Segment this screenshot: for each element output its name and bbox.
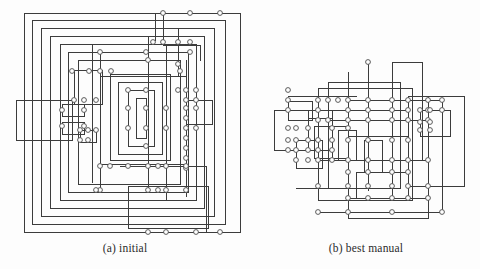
graph-node bbox=[316, 210, 321, 215]
graph-node bbox=[390, 138, 395, 143]
graph-node bbox=[144, 88, 149, 93]
graph-node bbox=[428, 120, 433, 125]
graph-edge bbox=[364, 140, 382, 172]
graph-node bbox=[316, 158, 321, 163]
graph-edge bbox=[420, 110, 450, 136]
graph-node bbox=[98, 69, 103, 74]
graph-node bbox=[316, 148, 321, 153]
graph-edge bbox=[110, 74, 170, 160]
graph-node bbox=[440, 108, 445, 113]
graph-node bbox=[366, 170, 371, 175]
graph-node bbox=[418, 128, 423, 133]
graph-node bbox=[188, 11, 193, 16]
graph-node bbox=[390, 158, 395, 163]
graph-node bbox=[126, 88, 131, 93]
graph-node bbox=[164, 230, 169, 235]
graph-node bbox=[366, 184, 371, 189]
graph-node bbox=[390, 108, 395, 113]
graph-node bbox=[70, 69, 75, 74]
graph-node bbox=[126, 106, 131, 111]
graph-node bbox=[60, 108, 65, 113]
graph-node bbox=[390, 118, 395, 123]
graph-node bbox=[109, 69, 114, 74]
graph-edge bbox=[338, 130, 356, 160]
graph-node bbox=[346, 126, 351, 131]
graph-edge bbox=[136, 98, 146, 138]
graph-node bbox=[316, 184, 321, 189]
graph-node bbox=[366, 118, 371, 123]
graph-node bbox=[428, 128, 433, 133]
graph-node bbox=[184, 136, 189, 141]
graph-node bbox=[184, 146, 189, 151]
graph-node bbox=[94, 98, 99, 103]
graph-node bbox=[428, 108, 433, 113]
graph-edge bbox=[186, 100, 212, 124]
graph-edge bbox=[120, 166, 206, 232]
graph-node bbox=[144, 50, 149, 55]
graph-node bbox=[390, 184, 395, 189]
graph-edge bbox=[274, 110, 308, 150]
graph-node bbox=[178, 69, 183, 74]
graph-node bbox=[146, 164, 151, 169]
graph-node bbox=[294, 126, 299, 131]
graph-edge bbox=[118, 82, 162, 154]
graph-node bbox=[306, 148, 311, 153]
graph-node bbox=[346, 196, 351, 201]
graph-node bbox=[406, 138, 411, 143]
graph-node bbox=[156, 164, 161, 169]
graph-node bbox=[440, 210, 445, 215]
graph-node bbox=[366, 196, 371, 201]
graph-node bbox=[294, 138, 299, 143]
graph-node bbox=[94, 188, 99, 193]
edge-layer bbox=[16, 13, 240, 232]
graph-node bbox=[440, 98, 445, 103]
graph-node bbox=[426, 158, 431, 163]
graph-node bbox=[330, 148, 335, 153]
graph-node bbox=[294, 148, 299, 153]
graph-node bbox=[60, 124, 65, 129]
graph-node bbox=[108, 164, 113, 169]
graph-node bbox=[188, 40, 193, 45]
graph-edge bbox=[348, 198, 428, 218]
graph-node bbox=[406, 108, 411, 113]
panel-initial-drawing bbox=[0, 0, 250, 240]
graph-node bbox=[330, 138, 335, 143]
graph-node bbox=[176, 88, 181, 93]
graph-node bbox=[286, 108, 291, 113]
graph-node bbox=[346, 138, 351, 143]
graph-node bbox=[72, 98, 77, 103]
caption-best-manual: (b) best manual bbox=[252, 242, 480, 254]
graph-node bbox=[346, 210, 351, 215]
graph-node bbox=[82, 108, 87, 113]
node-layer bbox=[286, 60, 445, 215]
graph-node bbox=[326, 98, 331, 103]
graph-node bbox=[426, 184, 431, 189]
graph-node bbox=[390, 210, 395, 215]
graph-node bbox=[390, 98, 395, 103]
graph-node bbox=[330, 158, 335, 163]
graph-node bbox=[161, 40, 166, 45]
graph-node bbox=[87, 69, 92, 74]
graph-node bbox=[126, 164, 131, 169]
graph-node bbox=[346, 108, 351, 113]
graph-node bbox=[184, 116, 189, 121]
graph-node bbox=[426, 196, 431, 201]
graph-node bbox=[346, 184, 351, 189]
graph-node bbox=[366, 158, 371, 163]
graph-node bbox=[161, 11, 166, 16]
graph-node bbox=[146, 188, 151, 193]
graph-node bbox=[326, 118, 331, 123]
graph-node bbox=[164, 164, 169, 169]
graph-node bbox=[306, 126, 311, 131]
graph-node bbox=[406, 158, 411, 163]
graph-node bbox=[390, 196, 395, 201]
graph-node bbox=[184, 188, 189, 193]
graph-node bbox=[286, 148, 291, 153]
graph-node bbox=[194, 230, 199, 235]
graph-node bbox=[346, 118, 351, 123]
graph-node bbox=[126, 126, 131, 131]
caption-initial: (a) initial bbox=[0, 242, 250, 254]
graph-node bbox=[78, 128, 83, 133]
graph-node bbox=[184, 98, 189, 103]
graph-node bbox=[306, 138, 311, 143]
